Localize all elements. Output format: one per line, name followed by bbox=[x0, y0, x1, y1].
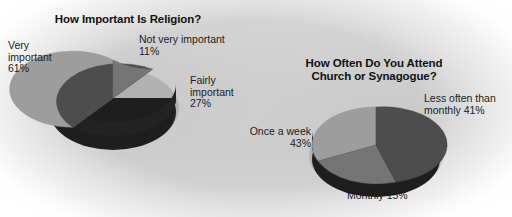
infographic-canvas: How Important Is Religion? Very importan… bbox=[0, 0, 512, 217]
label-fairly-important: Fairly important 27% bbox=[190, 75, 256, 110]
label-not-very-important: Not very important 11% bbox=[139, 34, 249, 57]
label-very-important: Very important 61% bbox=[8, 40, 94, 75]
chart-title-religion-importance: How Important Is Religion? bbox=[42, 13, 214, 26]
chart-title-attendance-frequency: How Often Do You Attend Church or Synago… bbox=[300, 57, 448, 82]
label-once-a-week: Once a week 43% bbox=[228, 126, 311, 149]
label-monthly: Monthly 15% bbox=[347, 190, 447, 202]
label-less-often-than-monthly: Less often than monthly 41% bbox=[424, 93, 512, 116]
